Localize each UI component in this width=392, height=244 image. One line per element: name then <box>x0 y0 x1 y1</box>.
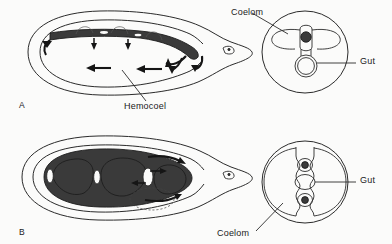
hemocoel-label: Hemocoel <box>124 101 166 111</box>
body-wall-a <box>28 11 252 95</box>
lateral-view-b <box>22 136 252 220</box>
biology-figure: Coelom Gut Hemocoel Gut Coelom A B <box>0 0 392 244</box>
head-eyespot-dot-b <box>228 173 230 175</box>
panel-letter-b: B <box>19 227 25 237</box>
cross-section-a <box>262 11 348 93</box>
gut-label-b: Gut <box>360 175 375 185</box>
lateral-view-a <box>28 11 252 95</box>
coelom-leader-line-b <box>256 203 283 231</box>
gut-label-a: Gut <box>360 56 375 66</box>
cross-section-outline-a <box>262 11 348 93</box>
head-eyespot-dot-a <box>228 48 230 50</box>
coelom-label-b: Coelom <box>217 228 249 238</box>
dorsal-vessel-a <box>301 32 311 42</box>
ventral-nerve-cord-b <box>302 197 309 204</box>
gut-highlight-2 <box>135 34 142 37</box>
gut-highlight-1 <box>100 31 108 34</box>
figure-canvas <box>0 0 392 244</box>
panel-letter-a: A <box>19 100 25 110</box>
coelom-label-a: Coelom <box>231 7 263 17</box>
dorsal-vessel-b <box>302 162 309 169</box>
